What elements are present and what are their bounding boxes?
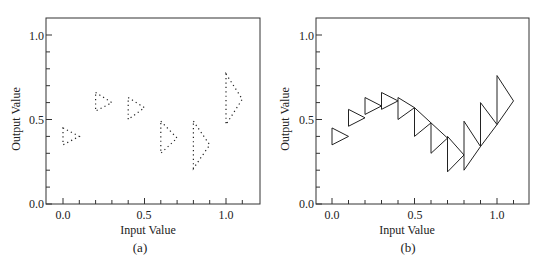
triangle-marker (415, 108, 432, 137)
axis-ticks (46, 35, 242, 204)
triangle-marker (398, 98, 415, 120)
triangle-marker (349, 109, 366, 126)
triangle-marker (226, 74, 242, 125)
triangle-marker (96, 92, 112, 111)
triangle-marker (128, 98, 144, 120)
x-tick-label-1: 1.0 (219, 208, 234, 222)
triangle-marker (332, 128, 349, 145)
triangle-marker (448, 136, 465, 171)
panel-b: 1.0 0.5 0.0 0.0 0.5 1.0 Input Value Outp… (278, 18, 529, 255)
y-tick-label-1: 1.0 (29, 29, 44, 43)
triangle-marker (464, 121, 481, 170)
y-axis-label: Output Value (278, 87, 292, 150)
figure: 1.0 0.5 0.0 0.0 0.5 1.0 Input Value Outp… (0, 0, 546, 268)
y-tick-label-05: 0.5 (299, 113, 314, 127)
x-tick-label-0: 0.0 (325, 208, 340, 222)
triangle-marker (497, 76, 514, 125)
triangle-marker (63, 128, 79, 145)
y-axis-label: Output Value (9, 87, 23, 150)
y-tick-label-05: 0.5 (29, 113, 44, 127)
triangle-marker (193, 121, 209, 168)
x-axis-label: Input Value (379, 223, 434, 237)
x-tick-label-05: 0.5 (137, 208, 152, 222)
y-tick-label-1: 1.0 (299, 29, 314, 43)
y-tick-label-0: 0.0 (29, 197, 44, 211)
plot-frame (46, 18, 260, 204)
x-tick-label-05: 0.5 (408, 208, 423, 222)
triangle-marker (431, 123, 448, 153)
data-markers (332, 76, 514, 172)
data-markers (63, 74, 242, 169)
y-tick-label-0: 0.0 (299, 197, 314, 211)
x-tick-label-1: 1.0 (490, 208, 505, 222)
x-axis-label: Input Value (120, 223, 175, 237)
triangle-marker (481, 103, 498, 147)
x-tick-label-0: 0.0 (56, 208, 71, 222)
panel-caption: (b) (400, 240, 415, 255)
triangle-marker (365, 98, 382, 115)
panel-a: 1.0 0.5 0.0 0.0 0.5 1.0 Input Value Outp… (9, 18, 260, 255)
panel-caption: (a) (133, 240, 147, 255)
triangle-marker (161, 121, 177, 153)
triangle-marker (382, 92, 399, 109)
